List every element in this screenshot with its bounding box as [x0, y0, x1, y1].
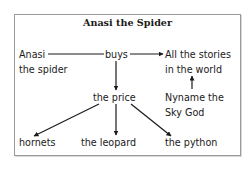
node-stories: All the stories in the world	[165, 47, 231, 77]
node-anasi-line2: the spider	[19, 62, 67, 77]
node-buys: buys	[105, 47, 128, 62]
node-stories-line2: in the world	[165, 62, 231, 77]
node-price-label: the price	[93, 90, 136, 105]
node-price: the price	[93, 90, 136, 105]
node-leopard-label: the leopard	[81, 135, 136, 150]
node-nyname: Nyname the Sky God	[165, 90, 224, 120]
node-hornets: hornets	[19, 135, 55, 150]
node-buys-label: buys	[105, 47, 128, 62]
edge-price-hornets	[34, 104, 99, 136]
node-hornets-label: hornets	[19, 135, 55, 150]
node-stories-line1: All the stories	[165, 47, 231, 62]
node-python: the python	[165, 135, 217, 150]
node-anasi: Anasi the spider	[19, 47, 67, 77]
node-nyname-line1: Nyname the	[165, 90, 224, 105]
node-nyname-line2: Sky God	[165, 105, 224, 120]
node-leopard: the leopard	[81, 135, 136, 150]
node-python-label: the python	[165, 135, 217, 150]
node-anasi-line1: Anasi	[19, 47, 67, 62]
